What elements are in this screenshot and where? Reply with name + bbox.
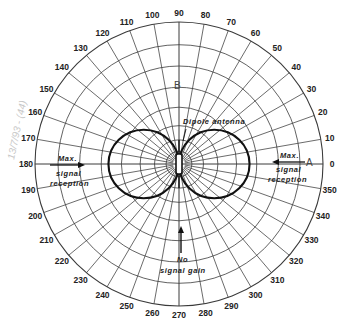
grid-spoke bbox=[185, 139, 321, 163]
angle-tick-label: 250 bbox=[120, 301, 134, 311]
grid-spoke bbox=[183, 169, 272, 273]
polar-diagram: 0102030405060708090100110120130140150160… bbox=[0, 0, 351, 327]
grid-spoke bbox=[183, 55, 272, 159]
angle-tick-label: 310 bbox=[270, 275, 284, 285]
grid-spoke bbox=[181, 170, 228, 298]
max-right-line3: reception bbox=[268, 175, 307, 184]
grid-spoke bbox=[130, 31, 177, 159]
angle-tick-label: 240 bbox=[95, 290, 109, 300]
max-left-line3: reception bbox=[50, 179, 89, 188]
dipole-antenna-label: Dipole antenna bbox=[183, 117, 245, 126]
angle-tick-label: 150 bbox=[39, 84, 53, 94]
dipole-pointer bbox=[183, 129, 186, 141]
dipole-element-icon bbox=[176, 154, 182, 174]
grid-spoke bbox=[130, 170, 177, 298]
angle-tick-label: 110 bbox=[120, 17, 134, 27]
point-a-label: A bbox=[306, 157, 313, 168]
angle-tick-label: 0 bbox=[330, 159, 335, 169]
no-gain-line1: No bbox=[177, 255, 188, 264]
angle-tick-label: 320 bbox=[289, 256, 303, 266]
angle-tick-label: 60 bbox=[251, 28, 261, 38]
angle-tick-label: 160 bbox=[28, 107, 42, 117]
angle-tick-label: 300 bbox=[248, 290, 262, 300]
angle-tick-label: 230 bbox=[74, 275, 88, 285]
angle-tick-label: 280 bbox=[198, 308, 212, 318]
max-left-line2: signal bbox=[56, 169, 82, 178]
angle-tick-label: 350 bbox=[323, 185, 337, 195]
angle-tick-label: 170 bbox=[21, 133, 35, 143]
angle-tick-label: 40 bbox=[291, 62, 301, 72]
max-right-line1: Max. bbox=[280, 151, 299, 160]
angle-tick-label: 270 bbox=[172, 310, 186, 320]
angle-tick-label: 220 bbox=[55, 256, 69, 266]
angle-tick-label: 80 bbox=[201, 10, 211, 20]
angle-tick-label: 120 bbox=[95, 28, 109, 38]
grid-spoke bbox=[181, 31, 228, 159]
angle-tick-label: 180 bbox=[19, 159, 33, 169]
max-left-line1: Max. bbox=[58, 154, 77, 163]
angle-tick-label: 10 bbox=[325, 133, 335, 143]
handwritten-annotation: 13/7/93 - (44) bbox=[5, 99, 28, 160]
dipole-antenna-element bbox=[176, 140, 182, 188]
max-right-line2: signal bbox=[276, 165, 302, 174]
angle-tick-label: 50 bbox=[273, 43, 283, 53]
angle-tick-label: 90 bbox=[174, 8, 184, 18]
point-b-label: B bbox=[174, 80, 181, 91]
angle-tick-label: 210 bbox=[39, 235, 53, 245]
angle-tick-label: 200 bbox=[28, 211, 42, 221]
angle-tick-label: 330 bbox=[304, 235, 318, 245]
no-gain-line2: signal gain bbox=[160, 266, 206, 275]
grid-spoke bbox=[86, 55, 175, 159]
arrow-right-icon bbox=[78, 162, 85, 168]
angle-tick-label: 260 bbox=[145, 308, 159, 318]
angle-tick-label: 100 bbox=[145, 10, 159, 20]
angle-tick-label: 190 bbox=[21, 185, 35, 195]
angle-tick-label: 70 bbox=[227, 17, 237, 27]
angle-tick-label: 140 bbox=[55, 62, 69, 72]
angle-tick-label: 130 bbox=[74, 43, 88, 53]
angle-tick-label: 30 bbox=[307, 84, 317, 94]
grid-spoke bbox=[86, 169, 175, 273]
angle-tick-label: 20 bbox=[318, 107, 328, 117]
angle-tick-label: 290 bbox=[224, 301, 238, 311]
grid-spoke bbox=[54, 93, 174, 161]
grid-spoke bbox=[69, 73, 175, 160]
polar-chart-svg: 0102030405060708090100110120130140150160… bbox=[0, 0, 351, 327]
angle-tick-label: 340 bbox=[316, 211, 330, 221]
